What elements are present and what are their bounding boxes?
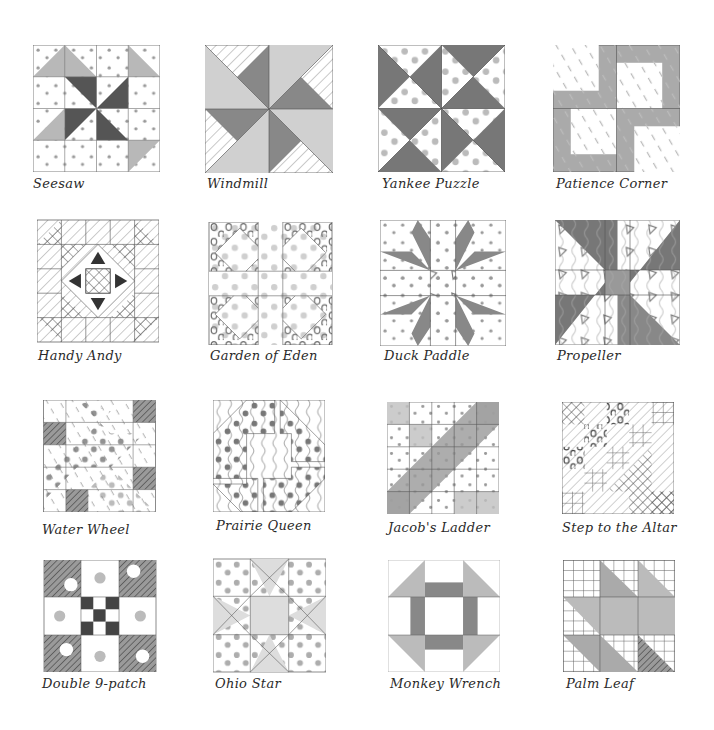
block-label: Monkey Wrench [390,676,501,691]
quilt-block-handy-andy [37,218,159,344]
block-label: Propeller [557,348,621,363]
block-label: Ohio Star [215,676,281,691]
quilt-block-duck-paddle [380,220,506,346]
block-label: Yankee Puzzle [382,176,480,191]
block-label: Windmill [207,176,268,191]
quilt-block-windmill [205,45,333,173]
quilt-block-patience-corner [553,45,680,172]
block-label: Duck Paddle [384,348,470,363]
quilt-block-step-to-the-altar [562,402,674,514]
quilt-block-prairie-queen [213,400,325,512]
block-label: Water Wheel [42,522,130,537]
block-label: Seesaw [33,176,85,191]
block-label: Handy Andy [38,348,122,363]
quilt-block-seesaw [33,45,160,172]
block-label: Jacob's Ladder [388,520,490,535]
quilt-block-jacobs-ladder [387,402,499,514]
quilt-block-yankee-puzzle [378,45,505,172]
block-label: Prairie Queen [216,518,312,533]
quilt-block-propeller [555,220,680,345]
block-label: Garden of Eden [210,348,318,363]
quilt-block-palm-leaf [563,560,675,672]
quilt-block-water-wheel [42,400,157,512]
block-label: Double 9-patch [42,676,147,691]
quilt-block-garden-of-eden [208,222,333,345]
block-label: Patience Corner [556,176,667,191]
block-label: Palm Leaf [566,676,634,691]
block-label: Step to the Altar [562,520,677,535]
quilt-block-ohio-star [213,558,326,673]
quilt-block-double-9-patch [43,560,157,672]
quilt-block-monkey-wrench [388,560,500,672]
